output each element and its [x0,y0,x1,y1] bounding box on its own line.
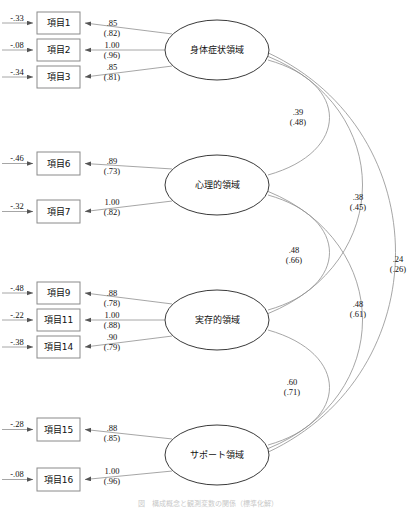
error-variance-label: -.33 [10,13,23,23]
factor-loading-arrow [85,471,172,479]
loading-standardized-label: (.82) [104,207,120,217]
observed-variable-label: 項目7 [47,207,71,217]
correlation-standardized-label: (.26) [390,264,406,274]
loading-coefficient-label: .88 [107,288,118,298]
loading-coefficient-label: .90 [107,332,118,342]
factor-loading-arrow [85,164,172,169]
correlation-standardized-label: (.61) [350,309,366,319]
loading-standardized-label: (.73) [104,166,120,176]
observed-variable-label: 項目11 [44,315,73,325]
observed-variable-label: 項目3 [47,72,71,82]
correlation-coefficient-label: .48 [289,245,300,255]
correlation-curve-f2-f4[interactable] [268,191,363,448]
observed-variable-label: 項目9 [47,288,71,298]
error-variance-label: -.34 [10,67,24,77]
loading-coefficient-label: 1.00 [105,466,120,476]
loading-standardized-label: (.85) [104,433,120,443]
loading-standardized-label: (.81) [104,72,120,82]
correlation-coefficient-label: .24 [393,254,404,264]
loading-coefficient-label: .85 [107,62,118,72]
factor-loading-arrow [85,430,172,439]
error-variance-label: -.08 [10,40,23,50]
factor-loading-arrow [85,336,172,347]
correlation-standardized-label: (.45) [350,202,366,212]
observed-variable-label: 項目6 [47,159,71,169]
error-variance-label: -.08 [10,469,23,479]
factor-loading-arrow [85,293,172,304]
correlation-standardized-label: (.66) [286,255,302,265]
loading-coefficient-label: 1.00 [105,40,120,50]
loading-standardized-label: (.82) [104,28,120,38]
error-variance-label: -.28 [10,419,23,429]
correlation-coefficient-label: .38 [353,192,364,202]
correlation-standardized-label: (.71) [284,387,300,397]
latent-factor-label-f3: 実存的領域 [195,314,240,325]
loading-standardized-label: (.79) [104,342,120,352]
error-variance-label: -.32 [10,201,23,211]
factor-loading-arrow [85,201,172,211]
observed-variable-label: 項目2 [47,45,71,55]
figure-caption: 図 構成概念と観測変数の関係（標準化解） [0,499,415,508]
loading-coefficient-label: 1.00 [105,197,120,207]
observed-variable-label: 項目14 [44,342,74,352]
loading-coefficient-label: 1.00 [105,310,120,320]
observed-variable-label: 項目15 [44,425,73,435]
path-arrows-group [2,23,172,480]
loading-standardized-label: (.96) [104,476,120,486]
observed-variable-boxes-group [37,12,80,491]
error-variance-label: -.38 [10,337,23,347]
latent-factor-label-f1: 身体症状領域 [190,44,244,55]
observed-variable-label: 項目16 [44,475,74,485]
loading-standardized-label: (.78) [104,298,120,308]
latent-factor-label-f2: 心理的領域 [195,179,240,190]
error-variance-label: -.48 [10,283,23,293]
latent-factor-label-f4: サポート領域 [190,449,244,460]
correlation-curve-f1-f3[interactable] [268,56,363,313]
loading-coefficient-label: .89 [107,156,118,166]
factor-loading-arrow [85,23,172,34]
factor-loading-arrow [85,66,172,77]
loading-standardized-label: (.88) [104,320,120,330]
loading-coefficient-label: .85 [107,18,118,28]
correlation-standardized-label: (.48) [290,117,306,127]
loading-coefficient-label: .88 [107,423,118,433]
diagram-canvas: 身体症状領域項目1-.33.85(.82)項目2-.081.00(.96)項目3… [0,0,415,508]
error-variance-label: -.22 [10,310,23,320]
loading-standardized-label: (.96) [104,50,120,60]
correlation-coefficient-label: .48 [353,299,364,309]
sem-path-diagram: 身体症状領域項目1-.33.85(.82)項目2-.081.00(.96)項目3… [0,0,415,508]
correlation-coefficient-label: .39 [293,107,304,117]
observed-variable-label: 項目1 [47,18,71,28]
correlation-coefficient-label: .60 [287,377,298,387]
error-variance-label: -.46 [10,153,23,163]
latent-factor-ellipses-group [165,20,269,485]
